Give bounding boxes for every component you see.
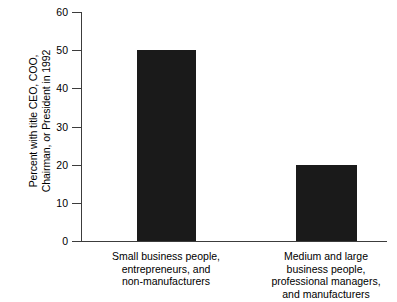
y-tick-mark — [72, 165, 81, 166]
bar-2 — [296, 165, 357, 241]
category-label-line: and manufacturers — [251, 288, 397, 301]
bar-chart: Percent with title CEO, COO, Chairman, o… — [0, 0, 397, 302]
y-tick-label: 40 — [22, 83, 68, 93]
y-tick-label: 30 — [22, 122, 68, 132]
category-label-line: business people, — [251, 263, 397, 276]
y-tick-mark — [72, 241, 81, 242]
category-label-line: entrepreneurs, and — [91, 263, 241, 276]
category-label-line: Medium and large — [251, 250, 397, 263]
x-axis-category-label-1: Small business people,entrepreneurs, and… — [91, 250, 241, 288]
y-tick-mark — [72, 203, 81, 204]
y-tick-label: 60 — [22, 7, 68, 17]
y-tick-mark — [72, 12, 81, 13]
y-tick-label: 0 — [22, 236, 68, 246]
category-label-line: non-manufacturers — [91, 275, 241, 288]
y-tick-label: 20 — [22, 160, 68, 170]
x-axis-line — [81, 241, 387, 242]
y-tick-label: 10 — [22, 198, 68, 208]
y-tick-mark — [72, 50, 81, 51]
y-tick-label: 50 — [22, 45, 68, 55]
y-tick-mark — [72, 127, 81, 128]
y-tick-mark — [72, 88, 81, 89]
y-axis-line — [81, 12, 82, 242]
category-label-line: Small business people, — [91, 250, 241, 263]
category-label-line: professional managers, — [251, 275, 397, 288]
bar-1 — [137, 50, 196, 241]
x-axis-category-label-2: Medium and largebusiness people,professi… — [251, 250, 397, 300]
